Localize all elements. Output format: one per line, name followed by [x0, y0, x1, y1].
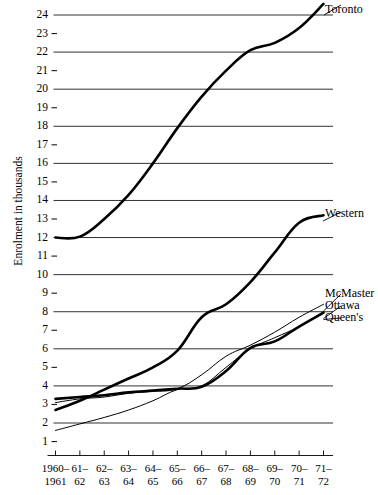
enrolment-line-chart: Enrolment in thousands 12345678910111213…	[0, 0, 378, 495]
plot-area	[0, 0, 378, 495]
series-line-toronto	[56, 4, 324, 239]
series-line-western	[56, 215, 324, 410]
gridlines	[54, 15, 334, 423]
series-label-queen-s: Queen's	[325, 311, 363, 323]
series-line-ottawa	[56, 312, 324, 431]
series-label-toronto: Toronto	[325, 3, 363, 15]
x-tick-label-top: 71–	[310, 462, 338, 475]
x-tick-label: 71–72	[310, 462, 338, 487]
series-label-western: Western	[325, 207, 364, 219]
x-tick-label-bottom: 72	[310, 475, 338, 488]
x-axis	[48, 451, 334, 456]
series-lines	[56, 4, 324, 431]
